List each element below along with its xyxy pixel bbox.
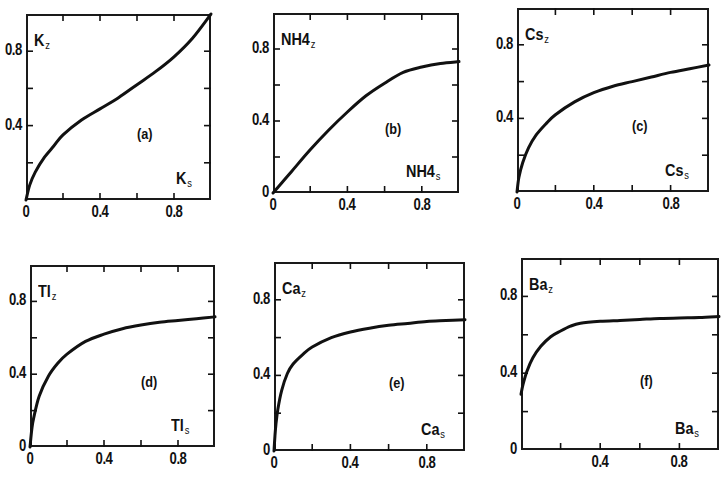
y-tick-label: 0.8 bbox=[489, 287, 517, 303]
panel-tag: (f) bbox=[640, 373, 653, 388]
isotherm-curve bbox=[521, 317, 719, 395]
x-axis-label-text: Ba bbox=[675, 419, 693, 438]
x-tick-label: 0.4 bbox=[584, 454, 617, 470]
x-axis-label-subscript: s bbox=[694, 427, 699, 439]
x-tick-label: 0.8 bbox=[663, 454, 696, 470]
y-tick-label: 0.4 bbox=[489, 364, 517, 380]
y-tick-label: 0 bbox=[489, 441, 517, 457]
plot-area bbox=[0, 0, 725, 482]
y-axis-label-text: Ba bbox=[529, 275, 547, 294]
isotherm-figure: 0.40.800.40.8KzKs(a)00.40.800.40.8NH4zNH… bbox=[0, 0, 725, 482]
x-axis-label: Bas bbox=[675, 420, 699, 439]
y-axis-label-subscript: z bbox=[548, 283, 553, 295]
y-axis-label: Baz bbox=[529, 276, 553, 295]
